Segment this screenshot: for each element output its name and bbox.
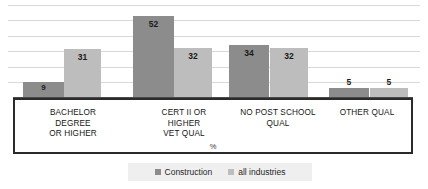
category-label-line: NO POST SCHOOL [223, 108, 333, 119]
legend-label: all industries [238, 167, 285, 177]
bar-value-label: 34 [229, 48, 269, 58]
category-label-line: VET QUAL [128, 129, 240, 140]
category-label-line: OR HIGHER [15, 129, 131, 140]
category-label-no-post-school: NO POST SCHOOL QUAL [223, 108, 333, 129]
bar-value-label: 52 [133, 19, 174, 29]
bar-all-industries-no-post-school[interactable]: 32 [270, 48, 308, 97]
bar-all-industries-other-qual[interactable]: 5 [370, 88, 408, 97]
bar-construction-bachelor[interactable]: 9 [23, 82, 64, 97]
bar-chart: 9 31 52 32 34 32 5 5 BACHELOR D [0, 0, 428, 189]
gridline-1 [8, 5, 420, 6]
bar-value-label: 5 [370, 77, 408, 87]
chart-legend: Construction all industries [128, 163, 312, 181]
category-label-line: DEGREE [15, 119, 131, 130]
category-label-other-qual: OTHER QUAL [321, 108, 413, 119]
category-label-line: BACHELOR [15, 108, 131, 119]
category-label-line: QUAL [223, 119, 333, 130]
bar-construction-other-qual[interactable]: 5 [329, 88, 369, 97]
bar-construction-no-post-school[interactable]: 34 [229, 45, 269, 97]
bar-construction-cert-ii[interactable]: 52 [133, 16, 174, 97]
category-label-box: BACHELOR DEGREE OR HIGHER CERT II OR HIG… [13, 98, 413, 154]
category-label-bachelor: BACHELOR DEGREE OR HIGHER [15, 108, 131, 140]
bar-all-industries-cert-ii[interactable]: 32 [174, 48, 212, 97]
legend-item-construction[interactable]: Construction [155, 167, 213, 177]
gridline-2 [8, 20, 420, 21]
axis-unit-label: % [15, 142, 411, 151]
legend-item-all-industries[interactable]: all industries [228, 167, 285, 177]
gridline-3 [8, 36, 420, 37]
plot-area: 9 31 52 32 34 32 5 5 [0, 0, 428, 99]
legend-label: Construction [165, 167, 213, 177]
bar-value-label: 9 [23, 83, 64, 92]
bar-value-label: 31 [64, 52, 101, 62]
legend-swatch-icon [228, 169, 234, 175]
bar-value-label: 5 [329, 77, 369, 87]
bar-value-label: 32 [174, 51, 212, 61]
bar-value-label: 32 [270, 51, 308, 61]
legend-swatch-icon [155, 169, 161, 175]
bar-all-industries-bachelor[interactable]: 31 [64, 49, 101, 97]
category-label-line: OTHER QUAL [321, 108, 413, 119]
